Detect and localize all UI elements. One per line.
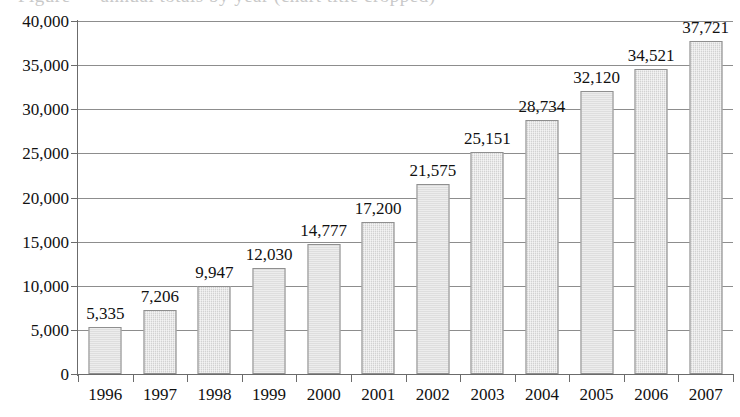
x-axis-tick [187,374,188,382]
y-axis-tick-label: 20,000 [22,189,69,206]
x-axis-label: 2002 [416,386,450,403]
bar-slot: 34,521 [624,21,679,374]
x-axis-tick [406,374,407,382]
y-axis-tick [71,109,78,110]
y-axis-tick [71,198,78,199]
x-axis-label: 2005 [580,386,614,403]
bar-value-label: 37,721 [682,19,729,36]
clipped-chart-title: Figure — annual totals by year (chart ti… [0,0,740,9]
bar-value-label: 21,575 [409,162,456,179]
x-axis-label: 1996 [88,386,122,403]
y-axis-tick-label: 0 [61,366,70,383]
x-axis-label: 2003 [470,386,504,403]
y-axis-tick [71,21,78,22]
x-axis-tick [133,374,134,382]
x-axis-label: 2004 [525,386,559,403]
bar[interactable] [362,222,395,374]
bar[interactable] [689,41,722,374]
bar[interactable] [635,69,668,374]
x-axis-label: 2001 [361,386,395,403]
bar-value-label: 12,030 [246,246,293,263]
x-axis-label: 1998 [197,386,231,403]
x-axis-label: 1999 [252,386,286,403]
bar-chart: Figure — annual totals by year (chart ti… [0,0,740,417]
y-axis-tick [71,153,78,154]
bar[interactable] [525,120,558,374]
bar[interactable] [143,310,176,374]
x-axis-tick [678,374,679,382]
bar-value-label: 7,206 [141,288,179,305]
bar-slot: 37,721 [678,21,733,374]
x-axis-label: 1997 [143,386,177,403]
x-axis-tick [460,374,461,382]
bar-value-label: 9,947 [195,264,233,281]
bar[interactable] [580,91,613,374]
y-axis-tick-label: 15,000 [22,233,69,250]
bar-value-label: 34,521 [628,47,675,64]
bar-slot: 28,734 [515,21,570,374]
x-axis-tick [569,374,570,382]
y-axis-tick-label: 25,000 [22,145,69,162]
y-axis-tick-label: 10,000 [22,277,69,294]
x-axis-tick [78,374,79,382]
bar[interactable] [198,286,231,374]
bar-value-label: 14,777 [300,222,347,239]
bar-slot: 32,120 [569,21,624,374]
bar-slot: 21,575 [406,21,461,374]
y-axis-tick [71,374,78,375]
y-axis-tick [71,286,78,287]
y-axis-tick [71,330,78,331]
x-axis-label: 2006 [634,386,668,403]
y-axis-tick-label: 35,000 [22,57,69,74]
bar-slot: 12,030 [242,21,297,374]
bar[interactable] [253,268,286,374]
y-axis-tick-label: 5,000 [31,321,69,338]
bar-slot: 25,151 [460,21,515,374]
y-axis-tick [71,242,78,243]
y-axis-tick-label: 30,000 [22,101,69,118]
x-axis-tick [351,374,352,382]
x-axis-tick [624,374,625,382]
bar-value-label: 5,335 [86,305,124,322]
bar-series: 5,3357,2069,94712,03014,77717,20021,5752… [78,21,733,374]
bar-slot: 14,777 [296,21,351,374]
clipped-chart-title-text: Figure — annual totals by year (chart ti… [18,0,435,7]
bar-value-label: 28,734 [519,98,566,115]
bar-value-label: 25,151 [464,130,511,147]
bar-value-label: 17,200 [355,200,402,217]
bar-slot: 5,335 [78,21,133,374]
bar-slot: 7,206 [133,21,188,374]
bar[interactable] [307,244,340,374]
plot-area: 05,00010,00015,00020,00025,00030,00035,0… [78,21,733,374]
bar-slot: 17,200 [351,21,406,374]
x-axis-tick [242,374,243,382]
bar-value-label: 32,120 [573,69,620,86]
x-axis-label: 2000 [307,386,341,403]
bar[interactable] [471,152,504,374]
y-axis-tick-label: 40,000 [22,13,69,30]
bar[interactable] [416,184,449,374]
bar[interactable] [89,327,122,374]
bar-slot: 9,947 [187,21,242,374]
x-axis-tick [733,374,734,382]
x-axis-label: 2007 [689,386,723,403]
y-axis-tick [71,65,78,66]
x-axis-tick [515,374,516,382]
x-axis-tick [296,374,297,382]
